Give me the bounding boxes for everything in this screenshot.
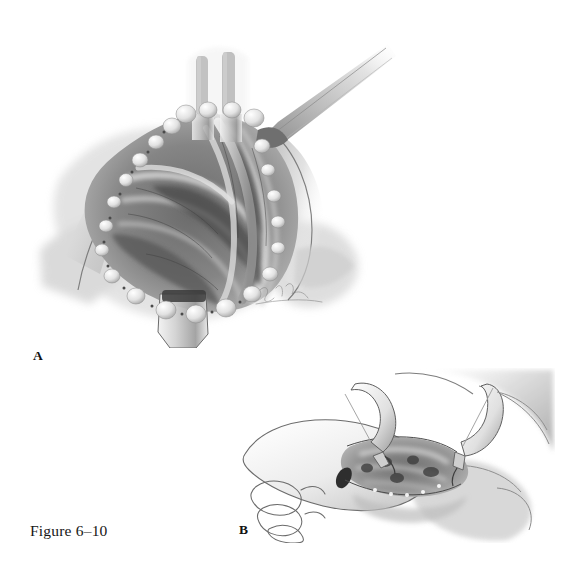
panel-a-retractor-handle	[256, 44, 396, 148]
panel-label-b: B	[239, 522, 248, 538]
figure-page: A B Figure 6–10	[0, 0, 563, 579]
figure-caption: Figure 6–10	[30, 522, 108, 540]
panel-a-illustration	[20, 18, 410, 348]
panel-label-a: A	[33, 348, 43, 364]
panel-b-illustration	[235, 368, 555, 543]
